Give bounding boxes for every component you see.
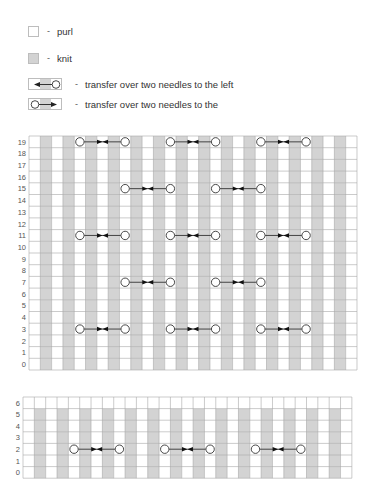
purl-cell xyxy=(136,432,147,444)
knit-cell xyxy=(193,455,204,467)
knit-cell xyxy=(57,432,68,444)
purl-cell xyxy=(341,455,352,467)
row-label: 6 xyxy=(16,399,20,408)
purl-cell xyxy=(159,409,170,421)
knit-cell xyxy=(34,455,45,467)
purl-cell xyxy=(136,409,147,421)
purl-cell xyxy=(182,467,193,479)
purl-cell xyxy=(250,420,261,432)
purl-cell xyxy=(46,397,57,409)
purl-cell xyxy=(272,432,283,444)
purl-cell xyxy=(227,420,238,432)
purl-cell xyxy=(182,397,193,409)
purl-cell xyxy=(295,432,306,444)
knit-cell xyxy=(329,409,340,421)
purl-cell xyxy=(68,455,79,467)
knit-cell xyxy=(284,432,295,444)
knit-cell xyxy=(170,409,181,421)
purl-cell xyxy=(23,467,34,479)
knit-cell xyxy=(216,443,227,455)
knit-cell xyxy=(102,455,113,467)
knit-cell xyxy=(284,467,295,479)
knit-cell xyxy=(148,455,159,467)
knit-cell xyxy=(238,432,249,444)
purl-cell xyxy=(227,467,238,479)
knit-cell xyxy=(80,420,91,432)
purl-cell xyxy=(23,432,34,444)
knit-cell xyxy=(34,432,45,444)
knit-cell xyxy=(148,409,159,421)
knit-cell xyxy=(261,467,272,479)
purl-cell xyxy=(250,467,261,479)
knit-cell xyxy=(193,409,204,421)
purl-cell xyxy=(318,443,329,455)
knit-cell xyxy=(307,455,318,467)
knit-cell xyxy=(148,443,159,455)
purl-cell xyxy=(204,467,215,479)
purl-cell xyxy=(114,409,125,421)
row-label: 3 xyxy=(16,433,20,442)
purl-cell xyxy=(114,467,125,479)
knit-cell xyxy=(307,467,318,479)
purl-cell xyxy=(272,420,283,432)
purl-cell xyxy=(136,397,147,409)
knit-cell xyxy=(307,443,318,455)
knit-cell xyxy=(34,409,45,421)
row-label: 0 xyxy=(16,468,20,477)
knit-cell xyxy=(125,455,136,467)
knit-cell xyxy=(261,420,272,432)
purl-cell xyxy=(272,409,283,421)
purl-cell xyxy=(114,420,125,432)
purl-cell xyxy=(341,443,352,455)
purl-cell xyxy=(341,397,352,409)
purl-cell xyxy=(318,409,329,421)
purl-cell xyxy=(318,467,329,479)
purl-cell xyxy=(204,397,215,409)
purl-cell xyxy=(91,455,102,467)
knit-cell xyxy=(193,420,204,432)
purl-cell xyxy=(272,467,283,479)
knit-cell xyxy=(102,432,113,444)
purl-cell xyxy=(295,397,306,409)
purl-cell xyxy=(227,443,238,455)
purl-cell xyxy=(23,397,34,409)
purl-cell xyxy=(318,420,329,432)
row-label: 4 xyxy=(16,422,20,431)
knit-cell xyxy=(216,409,227,421)
purl-cell xyxy=(227,397,238,409)
purl-cell xyxy=(318,397,329,409)
knit-cell xyxy=(329,455,340,467)
purl-cell xyxy=(91,420,102,432)
knit-cell xyxy=(57,443,68,455)
row-label: 1 xyxy=(16,457,20,466)
knit-cell xyxy=(57,467,68,479)
knit-cell xyxy=(170,420,181,432)
knit-cell xyxy=(80,467,91,479)
purl-cell xyxy=(250,455,261,467)
purl-cell xyxy=(91,409,102,421)
knit-cell xyxy=(284,409,295,421)
purl-cell xyxy=(238,397,249,409)
purl-cell xyxy=(125,397,136,409)
purl-cell xyxy=(227,409,238,421)
purl-cell xyxy=(23,455,34,467)
purl-cell xyxy=(341,420,352,432)
purl-cell xyxy=(34,397,45,409)
knit-cell xyxy=(238,443,249,455)
purl-cell xyxy=(329,397,340,409)
purl-cell xyxy=(193,397,204,409)
purl-cell xyxy=(159,420,170,432)
knit-cell xyxy=(57,455,68,467)
knit-cell xyxy=(80,455,91,467)
purl-cell xyxy=(250,397,261,409)
purl-cell xyxy=(91,467,102,479)
knit-cell xyxy=(170,455,181,467)
purl-cell xyxy=(341,432,352,444)
knit-cell xyxy=(329,467,340,479)
knit-cell xyxy=(307,409,318,421)
purl-cell xyxy=(227,432,238,444)
purl-cell xyxy=(204,420,215,432)
purl-cell xyxy=(159,397,170,409)
purl-cell xyxy=(170,397,181,409)
purl-cell xyxy=(148,397,159,409)
